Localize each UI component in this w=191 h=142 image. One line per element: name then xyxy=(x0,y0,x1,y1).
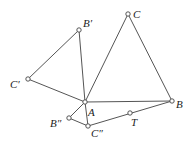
label-c: C xyxy=(133,8,141,20)
point-b-prime xyxy=(77,28,81,32)
label-t: T xyxy=(131,116,138,128)
segment-a-b-double-prime xyxy=(69,102,85,118)
label-c-double-prime: C″ xyxy=(91,127,103,139)
geometry-diagram: A B C B′ C′ B″ C″ T xyxy=(0,0,191,142)
point-c-double-prime xyxy=(86,124,90,128)
point-t xyxy=(128,111,132,115)
segment-b-prime-c-prime xyxy=(28,30,79,79)
label-b-prime: B′ xyxy=(83,17,93,29)
segment-b-double-prime-c-double-prime xyxy=(69,118,88,126)
point-a xyxy=(83,100,87,104)
segment-b-c xyxy=(128,14,172,101)
segment-a-b xyxy=(85,101,172,102)
point-b xyxy=(170,99,174,103)
label-b: B xyxy=(176,98,183,110)
point-c xyxy=(126,12,130,16)
point-b-double-prime xyxy=(67,116,71,120)
segment-a-b-prime xyxy=(79,30,85,102)
label-c-prime: C′ xyxy=(10,78,20,90)
label-a: A xyxy=(87,106,95,118)
label-b-double-prime: B″ xyxy=(50,117,62,129)
segment-c-prime-a xyxy=(28,79,85,102)
point-c-prime xyxy=(26,77,30,81)
